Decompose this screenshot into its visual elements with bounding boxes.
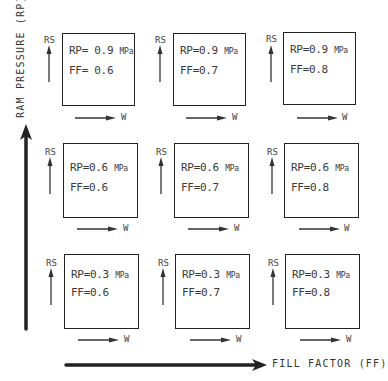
rp-unit: MPa bbox=[335, 164, 349, 173]
rp-value: RP=0.3 bbox=[292, 268, 330, 281]
ff-value: FF= 0.6 bbox=[69, 64, 113, 77]
rp-unit: MPa bbox=[334, 46, 348, 55]
condition-box: RP=0.3 MPa FF=0.6 bbox=[64, 254, 139, 329]
x-axis-label: FILL FACTOR (FF) bbox=[272, 358, 388, 369]
rp-value: RP=0.6 bbox=[291, 161, 329, 174]
rp-unit: MPa bbox=[115, 271, 129, 280]
condition-box: RP=0.6 MPa FF=0.8 bbox=[284, 143, 359, 218]
rp-value: RP=0.3 bbox=[71, 268, 109, 281]
rp-unit: MPa bbox=[114, 164, 128, 173]
rs-label: RS bbox=[268, 258, 279, 268]
rs-label: RS bbox=[266, 34, 277, 44]
w-label: W bbox=[346, 334, 351, 344]
rp-value: RP=0.6 bbox=[70, 161, 108, 174]
rp-unit: MPa bbox=[226, 271, 240, 280]
w-label: W bbox=[342, 112, 347, 122]
ff-value: FF=0.7 bbox=[182, 286, 220, 299]
w-label: W bbox=[232, 112, 237, 122]
rs-label: RS bbox=[158, 258, 169, 268]
rs-label: RS bbox=[267, 147, 278, 157]
condition-box: RP=0.3 MPa FF=0.8 bbox=[285, 254, 360, 329]
rs-label: RS bbox=[45, 147, 56, 157]
rp-unit: MPa bbox=[225, 164, 239, 173]
rp-value: RP=0.6 bbox=[181, 161, 219, 174]
rs-label: RS bbox=[155, 35, 166, 45]
rp-unit: MPa bbox=[336, 271, 350, 280]
rp-unit: MPa bbox=[120, 47, 134, 56]
ff-value: FF=0.8 bbox=[292, 286, 330, 299]
rs-label: RS bbox=[156, 147, 167, 157]
w-label: W bbox=[234, 223, 239, 233]
ff-value: FF=0.8 bbox=[291, 181, 329, 194]
ff-value: FF=0.7 bbox=[180, 64, 218, 77]
condition-box: RP= 0.9 MPa FF= 0.6 bbox=[62, 33, 135, 106]
ff-value: FF=0.7 bbox=[181, 181, 219, 194]
w-label: W bbox=[124, 334, 129, 344]
ff-value: FF=0.6 bbox=[70, 181, 108, 194]
condition-box: RP=0.6 MPa FF=0.7 bbox=[174, 143, 249, 218]
ff-value: FF=0.6 bbox=[71, 286, 109, 299]
y-axis-label: RAM PRESSURE (RP) bbox=[15, 0, 26, 118]
condition-box: RP=0.9 MPa FF=0.7 bbox=[173, 33, 246, 106]
ff-value: FF=0.8 bbox=[290, 63, 328, 76]
rp-value: RP= 0.9 bbox=[69, 44, 113, 57]
rp-value: RP=0.9 bbox=[180, 44, 218, 57]
rp-value: RP=0.9 bbox=[290, 43, 328, 56]
w-label: W bbox=[121, 112, 126, 122]
w-label: W bbox=[236, 334, 241, 344]
condition-box: RP=0.3 MPa FF=0.7 bbox=[175, 254, 250, 329]
condition-box: RP=0.6 MPa FF=0.6 bbox=[63, 143, 138, 218]
w-label: W bbox=[344, 223, 349, 233]
condition-box: RP=0.9 MPa FF=0.8 bbox=[283, 32, 356, 105]
rs-label: RS bbox=[44, 35, 55, 45]
rp-unit: MPa bbox=[224, 47, 238, 56]
rs-label: RS bbox=[46, 258, 57, 268]
rp-value: RP=0.3 bbox=[182, 268, 220, 281]
w-label: W bbox=[123, 223, 128, 233]
